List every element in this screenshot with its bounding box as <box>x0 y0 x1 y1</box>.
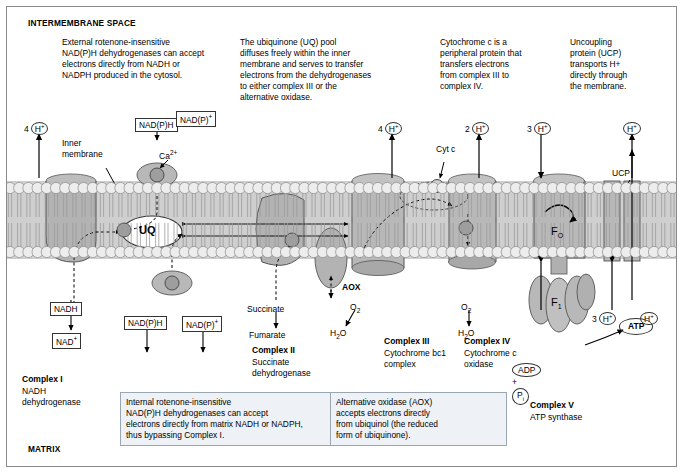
h2o-aox-end: O <box>340 328 347 338</box>
tag-nadp-outer: NAD(P)+ <box>176 111 216 127</box>
complex-ii-subtitle: Succinate dehydrogenase <box>252 357 311 378</box>
complex-iii-subtitle: Cytochrome bc1 complex <box>384 348 446 369</box>
proton-3h-top: 3H+ <box>527 122 551 135</box>
fo-label: F <box>551 225 558 237</box>
h2o-iv-end: O <box>468 328 475 338</box>
proton-2h: 2H+ <box>465 122 489 135</box>
complex-iv-subtitle: Cytochrome c oxidase <box>464 348 516 369</box>
complex-iii-title: Complex III <box>384 336 429 346</box>
f1-label: F <box>551 296 558 308</box>
pi-label: Pi <box>512 388 529 405</box>
o2-aox-label: O <box>350 302 357 312</box>
atp-label: ATP <box>619 318 653 335</box>
fo-subscript: O <box>558 232 563 239</box>
note-uq-pool: The ubiquinone (UQ) pool diffuses freely… <box>240 37 415 103</box>
note-aox: Alternative oxidase (AOX) accepts electr… <box>330 392 507 446</box>
succinate-label: Succinate <box>247 304 284 315</box>
complex-i-subtitle: NADH dehydrogenase <box>22 386 81 407</box>
tag-nadph-outer: NAD(P)H <box>135 118 178 132</box>
matrix-label: MATRIX <box>28 444 60 454</box>
complex-i-title: Complex I <box>22 374 63 384</box>
adp-label: ADP <box>512 363 541 378</box>
uq-label: UQ <box>139 224 156 238</box>
figure-canvas: INTERMEMBRANE SPACE MATRIX External rote… <box>0 0 683 473</box>
proton-4h-mid: 4H+ <box>378 122 402 135</box>
inner-membrane-label: Inner membrane <box>62 138 103 159</box>
proton-3h-bottom: 3H+ <box>592 312 616 325</box>
note-external-nadph: External rotenone-insensitive NAD(P)H de… <box>62 37 237 81</box>
cyt-c-label: Cyt c <box>436 144 455 155</box>
fumarate-label: Fumarate <box>249 330 285 341</box>
note-ucp: Uncoupling protein (UCP) transports H+ d… <box>570 37 665 92</box>
tag-nadp-inner: NAD(P)+ <box>182 316 222 332</box>
o2-aox-sub: 2 <box>357 307 361 314</box>
ucp-label: UCP <box>612 168 630 179</box>
note-cytochrome-c: Cytochrome c is a peripheral protein tha… <box>440 37 545 92</box>
tag-nadh: NADH <box>50 302 82 316</box>
tag-nad: NAD+ <box>52 333 81 349</box>
tag-nadph-inner: NAD(P)H <box>124 316 167 330</box>
plus-sign: + <box>512 377 517 387</box>
proton-h-ucp-top: H+ <box>623 122 641 135</box>
f1-subscript: 1 <box>558 303 562 310</box>
lipid-bilayer <box>7 181 676 259</box>
note-internal-nadph: Internal rotenone-insensitive NAD(P)H de… <box>120 392 332 446</box>
complex-ii-title: Complex II <box>252 345 295 355</box>
proton-4h-left: 4H+ <box>24 122 48 135</box>
intermembrane-space-label: INTERMEMBRANE SPACE <box>28 18 136 28</box>
aox-label: AOX <box>342 282 360 293</box>
complex-v-subtitle: ATP synthase <box>530 412 582 423</box>
ca-label: Ca <box>159 151 170 161</box>
o2-iv-label: O <box>461 302 468 312</box>
o2-iv-sub: 2 <box>468 307 472 314</box>
ca-charge: 2+ <box>170 149 177 156</box>
adp-pi-group: ADP + Pi <box>512 352 541 405</box>
